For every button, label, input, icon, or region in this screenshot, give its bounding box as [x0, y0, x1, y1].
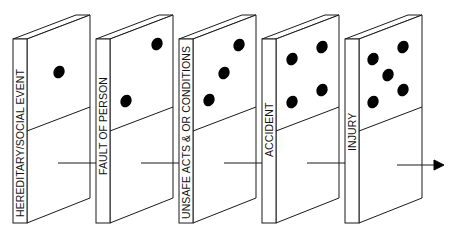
domino-1: HEREDITARY/SOCIAL EVENT — [13, 15, 90, 223]
domino-label-1: HEREDITARY/SOCIAL EVENT — [14, 69, 26, 217]
domino-label-2: FAULT OF PERSON — [97, 77, 109, 175]
domino-label-3: UNSAFE ACTS & OR CONDITIONS — [180, 46, 192, 219]
domino-label-5: INJURY — [346, 113, 358, 151]
domino-5: INJURY — [345, 15, 422, 223]
domino-3: UNSAFE ACTS & OR CONDITIONS — [179, 15, 256, 223]
domino-4: ACCIDENT — [262, 15, 339, 223]
domino-2: FAULT OF PERSON — [96, 15, 173, 223]
domino-diagram: HEREDITARY/SOCIAL EVENT FAULT OF PERSON … — [0, 0, 452, 238]
domino-label-4: ACCIDENT — [263, 102, 275, 157]
